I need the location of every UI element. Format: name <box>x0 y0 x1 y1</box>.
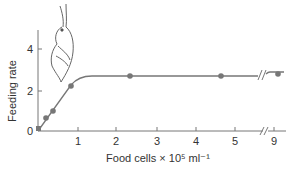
data-point <box>127 73 133 79</box>
x-tick-3: 3 <box>154 135 160 147</box>
x-tick-1: 1 <box>75 135 81 147</box>
y-tick-0: 0 <box>27 125 33 137</box>
x-tick-4: 4 <box>193 135 199 147</box>
x-tick-5: 5 <box>232 135 238 147</box>
fitted-curve <box>38 72 284 131</box>
curve-break-mark <box>258 70 266 80</box>
crustacean-illustration-icon <box>51 4 73 82</box>
data-point <box>36 126 41 131</box>
y-axis-title: Feeding rate <box>6 60 18 122</box>
x-axis-title: Food cells × 10⁵ ml⁻¹ <box>106 152 210 164</box>
axes <box>38 30 286 135</box>
y-tick-2: 2 <box>27 85 33 97</box>
data-point <box>218 73 224 79</box>
data-point <box>43 115 49 121</box>
feeding-rate-chart: 0 2 4 1 2 3 4 5 9 Food cells × 10⁵ ml⁻¹ … <box>0 0 303 170</box>
data-point <box>275 71 281 77</box>
data-point <box>50 108 56 114</box>
y-tick-4: 4 <box>27 43 33 55</box>
data-points <box>36 71 281 131</box>
x-tick-9: 9 <box>271 135 277 147</box>
data-point <box>68 83 74 89</box>
x-tick-2: 2 <box>113 135 119 147</box>
